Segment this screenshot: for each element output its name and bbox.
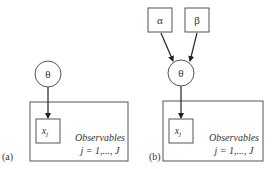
panel-label-a: (a) bbox=[2, 151, 13, 163]
plate-title: Observables bbox=[75, 132, 125, 143]
panel-label-b: (b) bbox=[149, 151, 161, 163]
edge-alpha-to-theta bbox=[161, 33, 173, 61]
plate-title: Observables bbox=[209, 132, 259, 143]
plate-range: j = 1,..., J bbox=[79, 145, 121, 156]
panel-b: α β θ xj Observables j = 1,..., J (b) bbox=[148, 8, 263, 163]
alpha-label: α bbox=[157, 14, 163, 26]
graphical-model-diagram: θ xj Observables j = 1,..., J (a) α β θ … bbox=[0, 0, 276, 169]
edge-beta-to-theta bbox=[190, 33, 197, 61]
beta-label: β bbox=[194, 14, 200, 26]
theta-label: θ bbox=[178, 67, 183, 79]
theta-label: θ bbox=[45, 68, 50, 80]
panel-a: θ xj Observables j = 1,..., J (a) bbox=[2, 61, 128, 163]
plate-range: j = 1,..., J bbox=[213, 145, 255, 156]
